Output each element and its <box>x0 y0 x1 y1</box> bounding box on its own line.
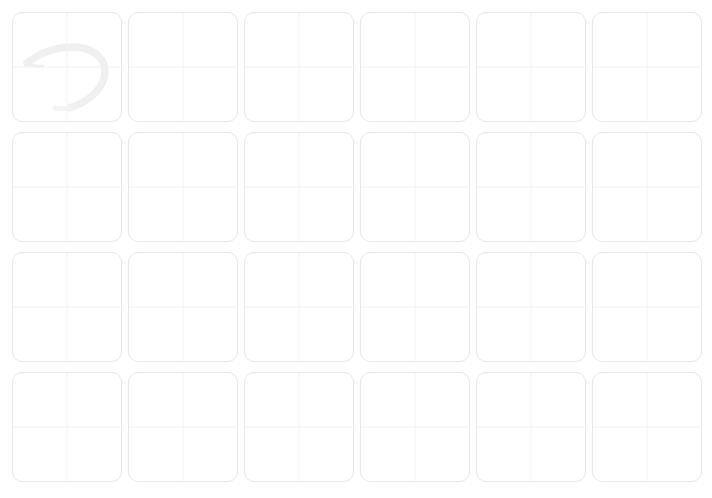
practice-cell[interactable] <box>592 372 702 482</box>
horizontal-guideline <box>13 427 121 428</box>
vertical-guideline <box>67 133 68 241</box>
horizontal-guideline <box>593 67 701 68</box>
practice-cell[interactable] <box>360 12 470 122</box>
vertical-guideline <box>531 253 532 361</box>
horizontal-guideline <box>245 187 353 188</box>
practice-cell[interactable] <box>360 372 470 482</box>
ink-stroke-backwards-d-hook <box>13 13 122 122</box>
horizontal-guideline <box>129 427 237 428</box>
vertical-guideline <box>67 373 68 481</box>
vertical-guideline <box>299 133 300 241</box>
practice-cell[interactable] <box>592 12 702 122</box>
horizontal-guideline <box>593 427 701 428</box>
horizontal-guideline <box>13 187 121 188</box>
horizontal-guideline <box>361 67 469 68</box>
vertical-guideline <box>299 13 300 121</box>
practice-cell[interactable] <box>360 132 470 242</box>
horizontal-guideline <box>361 307 469 308</box>
vertical-guideline <box>647 13 648 121</box>
practice-cell[interactable] <box>128 132 238 242</box>
practice-cell[interactable] <box>476 132 586 242</box>
horizontal-guideline <box>477 67 585 68</box>
practice-cell[interactable] <box>592 132 702 242</box>
practice-cell[interactable] <box>476 252 586 362</box>
horizontal-guideline <box>245 307 353 308</box>
vertical-guideline <box>415 253 416 361</box>
vertical-guideline <box>183 373 184 481</box>
practice-cell[interactable] <box>244 12 354 122</box>
practice-cell[interactable] <box>244 372 354 482</box>
practice-cell[interactable] <box>476 12 586 122</box>
vertical-guideline <box>531 13 532 121</box>
practice-cell[interactable] <box>128 252 238 362</box>
ink-path <box>27 63 43 66</box>
horizontal-guideline <box>245 67 353 68</box>
vertical-guideline <box>415 373 416 481</box>
horizontal-guideline <box>593 187 701 188</box>
horizontal-guideline <box>13 67 121 68</box>
vertical-guideline <box>647 133 648 241</box>
horizontal-guideline <box>129 187 237 188</box>
practice-cell[interactable] <box>476 372 586 482</box>
horizontal-guideline <box>361 187 469 188</box>
vertical-guideline <box>67 253 68 361</box>
vertical-guideline <box>531 373 532 481</box>
vertical-guideline <box>531 133 532 241</box>
practice-cell-grid <box>12 12 702 482</box>
horizontal-guideline <box>477 427 585 428</box>
practice-cell[interactable] <box>128 12 238 122</box>
ink-stroke-layer <box>13 13 121 121</box>
vertical-guideline <box>647 373 648 481</box>
horizontal-guideline <box>477 187 585 188</box>
vertical-guideline <box>183 133 184 241</box>
practice-cell[interactable] <box>244 132 354 242</box>
vertical-guideline <box>67 13 68 121</box>
ink-path <box>55 108 69 109</box>
horizontal-guideline <box>129 67 237 68</box>
horizontal-guideline <box>245 427 353 428</box>
practice-cell[interactable] <box>12 132 122 242</box>
vertical-guideline <box>299 253 300 361</box>
horizontal-guideline <box>129 307 237 308</box>
practice-canvas <box>0 0 712 498</box>
vertical-guideline <box>415 13 416 121</box>
practice-cell[interactable] <box>128 372 238 482</box>
practice-cell[interactable] <box>592 252 702 362</box>
practice-cell[interactable] <box>12 12 122 122</box>
practice-cell[interactable] <box>12 372 122 482</box>
vertical-guideline <box>647 253 648 361</box>
horizontal-guideline <box>13 307 121 308</box>
practice-cell[interactable] <box>360 252 470 362</box>
vertical-guideline <box>415 133 416 241</box>
vertical-guideline <box>183 13 184 121</box>
horizontal-guideline <box>361 427 469 428</box>
vertical-guideline <box>299 373 300 481</box>
horizontal-guideline <box>477 307 585 308</box>
ink-path <box>27 47 105 108</box>
practice-cell[interactable] <box>12 252 122 362</box>
horizontal-guideline <box>593 307 701 308</box>
practice-cell[interactable] <box>244 252 354 362</box>
vertical-guideline <box>183 253 184 361</box>
